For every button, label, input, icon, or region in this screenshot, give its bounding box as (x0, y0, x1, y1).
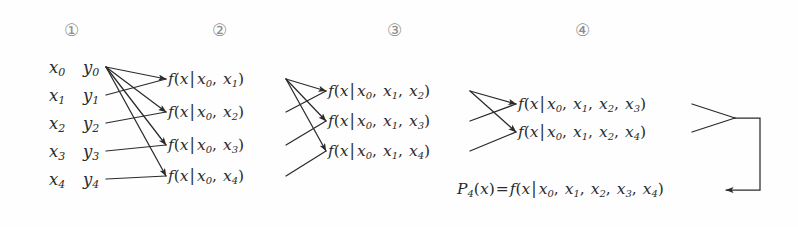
x-subscript: 1 (58, 94, 65, 107)
y-symbol: y (83, 86, 92, 105)
node-f-x0-x1-x4: f(x|x0, x1, x4) (328, 143, 430, 160)
node-f-x0-x1: f(x|x0, x1) (168, 71, 244, 88)
divided-difference-diagram: ① ② ③ ④ x0 x1 x2 x3 x4 y0 y1 y2 y3 y4 f(… (0, 0, 798, 227)
node-f-x0-x1-x2-x3: f(x|x0, x1, x2, x3) (518, 96, 646, 113)
result-p4-equation: P4(x)=f(x|x0, x1, x2, x3, x4) (457, 181, 664, 198)
x-symbol: x (49, 114, 58, 133)
equals-sign: = (495, 180, 510, 198)
y-label-2: y2 (83, 116, 99, 133)
y-label-0: y0 (83, 60, 99, 77)
y-symbol: y (83, 114, 92, 133)
x-symbol: x (49, 86, 58, 105)
node-f-x0-x1-x2-x4: f(x|x0, x1, x2, x4) (518, 124, 646, 141)
x-symbol: x (49, 142, 58, 161)
edges-col2-col3 (286, 79, 326, 176)
x-subscript: 0 (58, 66, 65, 79)
y-subscript: 1 (92, 94, 99, 107)
node-f-x0-x3: f(x|x0, x3) (168, 137, 244, 154)
x-label-4: x4 (49, 172, 65, 189)
node-f-x0-x1-x2: f(x|x0, x1, x2) (328, 83, 430, 100)
x-label-2: x2 (49, 116, 65, 133)
node-f-x0-x1-x3: f(x|x0, x1, x3) (328, 113, 430, 130)
column-header-2: ② (212, 22, 227, 39)
x-label-0: x0 (49, 60, 65, 77)
x-subscript: 2 (58, 122, 65, 135)
x-symbol: x (49, 58, 58, 77)
edges-col4-result (692, 104, 760, 190)
x-subscript: 4 (58, 178, 65, 191)
node-f-x0-x4: f(x|x0, x4) (168, 168, 244, 185)
column-header-4: ④ (575, 22, 590, 39)
y-label-4: y4 (83, 172, 99, 189)
y-symbol: y (83, 170, 92, 189)
y-subscript: 3 (92, 150, 99, 163)
x-symbol: x (49, 170, 58, 189)
y-subscript: 2 (92, 122, 99, 135)
p-symbol: P (457, 180, 467, 198)
y-label-1: y1 (83, 88, 99, 105)
y-symbol: y (83, 58, 92, 77)
column-header-3: ③ (387, 22, 402, 39)
node-f-x0-x2: f(x|x0, x2) (168, 104, 244, 121)
edges-col3-col4 (470, 91, 516, 151)
y-symbol: y (83, 142, 92, 161)
column-header-1: ① (64, 22, 79, 39)
y-label-3: y3 (83, 144, 99, 161)
x-label-3: x3 (49, 144, 65, 161)
y-subscript: 4 (92, 178, 99, 191)
edges-col1-rows (106, 79, 166, 179)
x-label-1: x1 (49, 88, 65, 105)
y-subscript: 0 (92, 66, 99, 79)
p-subscript: 4 (467, 188, 473, 199)
x-subscript: 3 (58, 150, 65, 163)
